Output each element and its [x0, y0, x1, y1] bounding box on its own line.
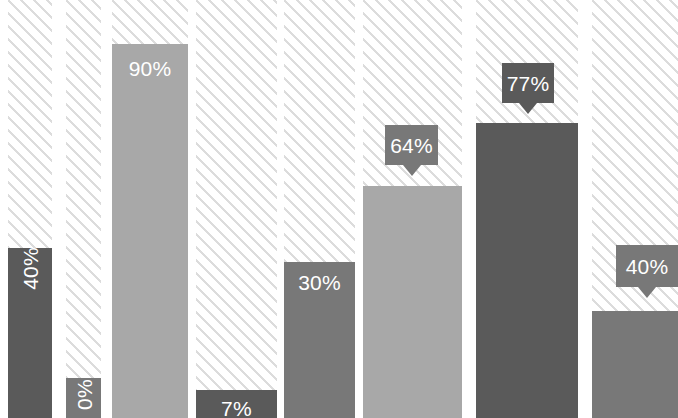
- bar-3[interactable]: [112, 44, 188, 418]
- bar-value-label-3: 90%: [129, 58, 172, 79]
- bar-value-label-5: 30%: [298, 272, 341, 293]
- bar-6[interactable]: [363, 186, 462, 418]
- bar-7[interactable]: [476, 123, 578, 418]
- bar-value-label-2: 0%: [73, 379, 94, 410]
- bar-value-callout-8: 40%: [616, 245, 678, 287]
- callout-tail-icon-6: [403, 165, 421, 176]
- bar-chart: 40%0%90%7%30%64%77%40%: [0, 0, 678, 418]
- hatched-column-4: [196, 0, 277, 418]
- hatched-column-2: [66, 0, 101, 418]
- bar-value-label-1: 40%: [20, 247, 41, 290]
- callout-tail-icon-7: [519, 103, 537, 114]
- callout-tail-icon-8: [638, 287, 656, 298]
- bar-value-callout-7: 77%: [502, 63, 554, 103]
- bar-value-callout-6: 64%: [385, 125, 438, 165]
- bar-8[interactable]: [592, 311, 678, 418]
- bar-value-label-4: 7%: [221, 398, 252, 418]
